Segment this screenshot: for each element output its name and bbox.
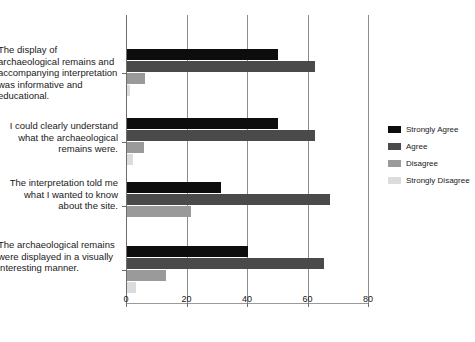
bar (127, 182, 221, 193)
x-tick-label-60: 60 (302, 294, 312, 304)
bar (127, 130, 315, 141)
bar (127, 194, 330, 205)
x-tick-label-40: 40 (242, 294, 252, 304)
legend-label: Strongly Disagree (406, 176, 470, 185)
legend-label: Agree (406, 142, 427, 151)
y-tick-mark (122, 206, 127, 207)
y-tick-mark (122, 270, 127, 271)
chart-legend: Strongly AgreeAgreeDisagreeStrongly Disa… (388, 122, 473, 190)
legend-swatch-icon (388, 143, 401, 150)
legend-item: Strongly Disagree (388, 173, 473, 187)
horizontal-bar-chart: 020406080 The display of archaeological … (0, 0, 475, 342)
category-label: The archaeological remains were displaye… (0, 239, 118, 274)
x-tick-label-0: 0 (123, 294, 128, 304)
category-label: I could clearly understand what the arch… (0, 120, 118, 155)
legend-label: Disagree (406, 159, 438, 168)
bar (127, 206, 191, 217)
legend-item: Agree (388, 139, 473, 153)
y-tick-mark (122, 73, 127, 74)
legend-label: Strongly Agree (406, 125, 458, 134)
legend-swatch-icon (388, 126, 401, 133)
x-tick-label-80: 80 (363, 294, 373, 304)
y-tick-mark (122, 142, 127, 143)
bar (127, 142, 144, 153)
category-label: The display of archaeological remains an… (0, 44, 118, 102)
bar (127, 118, 278, 129)
category-label: The interpretation told me what I wanted… (0, 177, 118, 212)
plot-area (126, 15, 368, 303)
legend-item: Strongly Agree (388, 122, 473, 136)
x-tick-label-20: 20 (181, 294, 191, 304)
bar (127, 73, 145, 84)
bar (127, 154, 133, 165)
bar (127, 270, 166, 281)
bar (127, 61, 315, 72)
bar (127, 246, 248, 257)
bar (127, 282, 136, 293)
legend-item: Disagree (388, 156, 473, 170)
bar (127, 258, 324, 269)
gridline-80 (368, 15, 369, 303)
legend-swatch-icon (388, 177, 401, 184)
legend-swatch-icon (388, 160, 401, 167)
bar (127, 49, 278, 60)
bar (127, 85, 130, 96)
